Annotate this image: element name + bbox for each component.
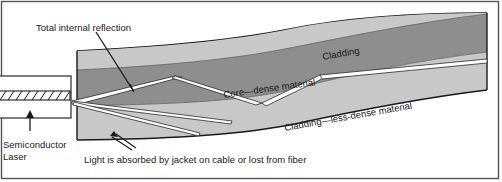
label-absorbed-light: Light is absorbed by jacket on cable or … [84, 154, 306, 165]
figure-optical-fiber: Total internal reflection Cladding Core—… [0, 0, 502, 182]
label-semiconductor-laser-line2: Laser [3, 151, 27, 162]
label-total-internal-reflection: Total internal reflection [36, 22, 131, 33]
fiber-diagram-svg: Total internal reflection Cladding Core—… [0, 0, 502, 182]
label-semiconductor-laser-line1: Semiconductor [3, 139, 66, 150]
laser-hatch-element [0, 91, 70, 100]
